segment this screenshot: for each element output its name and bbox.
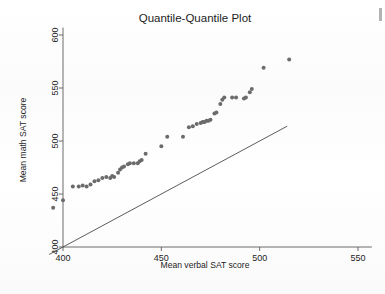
data-point [140, 158, 144, 162]
data-point [214, 110, 218, 114]
data-point [132, 161, 136, 165]
x-tick-label-550: 550 [350, 253, 365, 263]
x-axis-label: Mean verbal SAT score [160, 260, 249, 270]
data-point [96, 178, 100, 182]
data-point [244, 96, 248, 100]
data-point [85, 185, 89, 189]
data-point [159, 144, 163, 148]
chart-title: Quantile-Quantile Plot [139, 12, 252, 24]
data-point [51, 206, 55, 210]
data-point [77, 185, 81, 189]
y-tick-label-450: 450 [50, 186, 60, 201]
data-point [128, 161, 132, 165]
data-point [191, 124, 195, 128]
x-tick-label-500: 500 [252, 253, 267, 263]
data-point [187, 125, 191, 129]
y-tick-labels: 400450500550600 [50, 27, 60, 254]
scatter-points [51, 57, 291, 209]
data-point [250, 87, 254, 91]
y-tick-label-500: 500 [50, 133, 60, 148]
tick-marks-group [59, 35, 358, 251]
axis-spine [63, 28, 372, 247]
data-point [195, 122, 199, 126]
y-tick-label-550: 550 [50, 80, 60, 95]
reference-line-path [49, 126, 287, 254]
data-point [222, 96, 226, 100]
data-point [262, 66, 266, 70]
reference-line [49, 126, 287, 254]
y-tick-label-400: 400 [50, 239, 60, 254]
data-point [71, 185, 75, 189]
data-point [89, 182, 93, 186]
data-point [112, 175, 116, 179]
page-canvas: Quantile-Quantile Plot 400450500550 4004… [0, 0, 385, 294]
data-point [209, 118, 213, 122]
page-corner-mark [379, 8, 382, 21]
axes-group [63, 28, 372, 247]
data-point [234, 96, 238, 100]
y-axis-label: Mean math SAT score [18, 97, 28, 182]
data-point [100, 176, 104, 180]
data-point [122, 164, 126, 168]
data-point [181, 135, 185, 139]
data-point [104, 175, 108, 179]
data-point [165, 135, 169, 139]
chart-svg: Quantile-Quantile Plot 400450500550 4004… [0, 0, 385, 294]
data-point [230, 96, 234, 100]
quantile-quantile-chart: Quantile-Quantile Plot 400450500550 4004… [0, 0, 385, 294]
data-point [81, 184, 85, 188]
data-point [144, 152, 148, 156]
data-point [218, 102, 222, 106]
data-point [287, 57, 291, 61]
data-point [92, 179, 96, 183]
data-point [61, 198, 65, 202]
y-tick-label-600: 600 [50, 27, 60, 42]
